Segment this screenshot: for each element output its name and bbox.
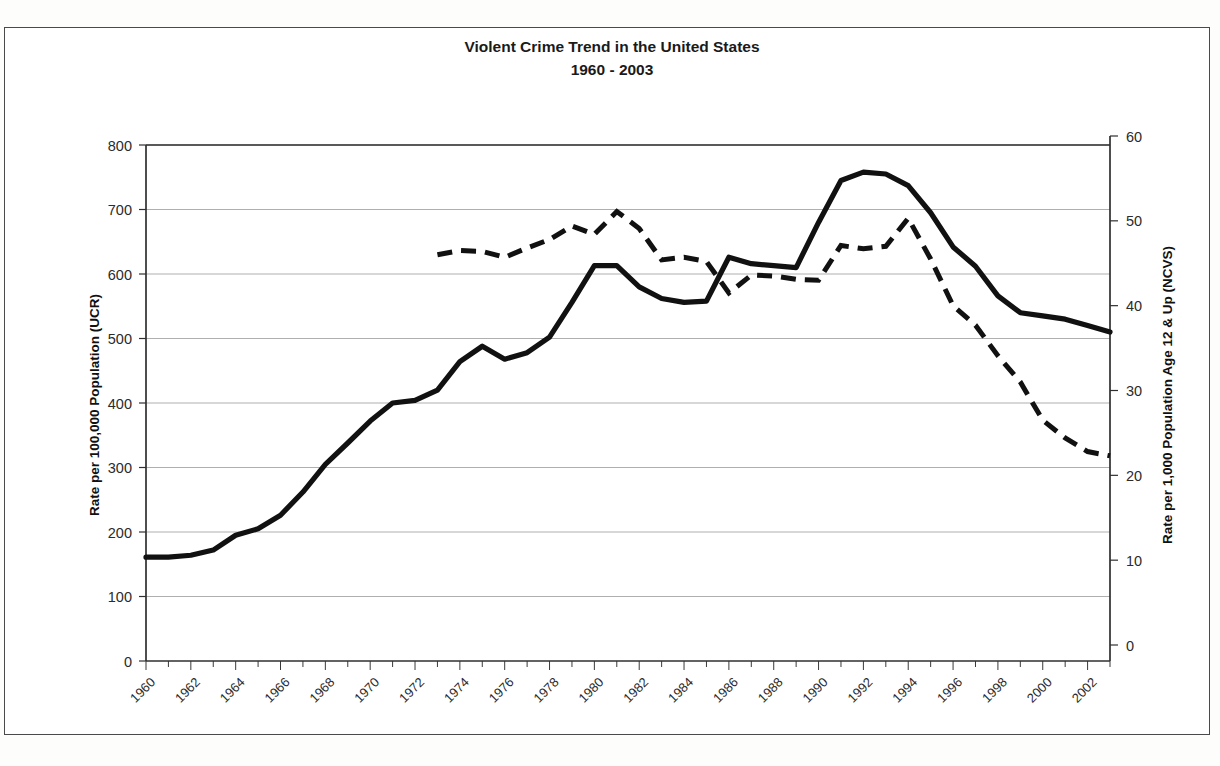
x-axis-label: 1966: [262, 675, 293, 706]
x-axis-label: 1972: [396, 675, 427, 706]
series-line-ucr: [146, 172, 1110, 557]
x-axis-label: 1982: [620, 675, 651, 706]
violent-crime-chart: Violent Crime Trend in the United States…: [0, 0, 1220, 766]
x-axis-label: 1990: [800, 675, 831, 706]
left-tick-label: 0: [124, 654, 132, 670]
x-axis-label: 1984: [665, 675, 696, 706]
right-tick-label: 60: [1126, 129, 1142, 145]
left-tick-label: 800: [108, 138, 132, 154]
x-axis-label: 1994: [889, 675, 920, 706]
x-axis-label: 1980: [575, 675, 606, 706]
left-tick-label: 200: [108, 525, 132, 541]
left-tick-label: 100: [108, 589, 132, 605]
chart-title-group: Violent Crime Trend in the United States…: [464, 38, 759, 78]
left-tick-label: 600: [108, 267, 132, 283]
left-tick-label: 300: [108, 460, 132, 476]
right-tick-label: 10: [1126, 553, 1142, 569]
page-root: Violent Crime Trend in the United States…: [0, 0, 1220, 766]
left-tick-label: 700: [108, 202, 132, 218]
chart-title-line1: Violent Crime Trend in the United States: [464, 38, 759, 55]
x-axis-label: 1970: [351, 675, 382, 706]
left-axis-ticks: 0100200300400500600700800: [108, 138, 146, 670]
gridlines-group: [146, 145, 1110, 597]
x-axis-label: 1960: [127, 675, 158, 706]
right-tick-label: 30: [1126, 383, 1142, 399]
left-axis-title: Rate per 100,000 Population (UCR): [87, 294, 102, 516]
x-axis-label: 1978: [531, 675, 562, 706]
x-axis-label: 1976: [486, 675, 517, 706]
right-tick-label: 50: [1126, 213, 1142, 229]
left-tick-label: 400: [108, 396, 132, 412]
x-axis-labels: 1960196219641966196819701972197419761978…: [127, 675, 1100, 706]
series-line-ncvs: [437, 212, 1110, 456]
right-axis-ticks: 0102030405060: [1110, 129, 1142, 654]
x-axis-label: 1992: [844, 675, 875, 706]
x-axis-label: 1964: [217, 675, 248, 706]
x-axis-label: 1974: [441, 675, 472, 706]
right-tick-label: 40: [1126, 298, 1142, 314]
right-tick-label: 20: [1126, 468, 1142, 484]
x-axis-label: 1962: [172, 675, 203, 706]
left-tick-label: 500: [108, 331, 132, 347]
x-axis-label: 1968: [306, 675, 337, 706]
x-axis-label: 1988: [755, 675, 786, 706]
x-axis-label: 1996: [934, 675, 965, 706]
x-axis-label: 2000: [1024, 675, 1055, 706]
x-axis-label: 1998: [979, 675, 1010, 706]
x-axis-ticks: [146, 661, 1110, 670]
x-axis-label: 2002: [1069, 675, 1100, 706]
right-axis-title: Rate per 1,000 Population Age 12 & Up (N…: [1160, 246, 1175, 544]
chart-title-line2: 1960 - 2003: [571, 61, 654, 78]
right-tick-label: 0: [1126, 638, 1134, 654]
x-axis-label: 1986: [710, 675, 741, 706]
